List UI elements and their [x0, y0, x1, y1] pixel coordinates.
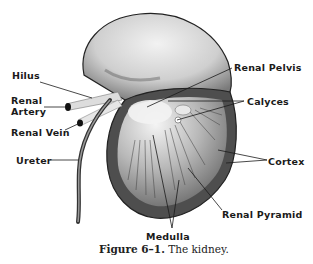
figure-number: Figure 6–1.	[99, 243, 165, 255]
label-renal-pelvis: Renal Pelvis	[234, 62, 302, 73]
kidney-section	[107, 88, 237, 218]
label-calyces: Calyces	[247, 96, 289, 107]
figure-title: The kidney.	[168, 243, 229, 255]
label-renal-artery-line2: Artery	[11, 106, 46, 117]
kidney-capsule	[83, 13, 231, 100]
figure-caption: Figure 6–1. The kidney.	[99, 243, 229, 255]
label-renal-artery-line1: Renal	[11, 95, 42, 106]
label-ureter: Ureter	[16, 155, 52, 166]
label-medulla: Medulla	[146, 231, 190, 242]
label-renal-vein: Renal Vein	[11, 127, 70, 138]
label-hilus: Hilus	[12, 70, 40, 81]
label-cortex: Cortex	[268, 156, 305, 167]
label-renal-pyramid: Renal Pyramid	[222, 209, 302, 220]
kidney-figure: Hilus Renal Artery Renal Vein Ureter Ren…	[0, 0, 313, 264]
